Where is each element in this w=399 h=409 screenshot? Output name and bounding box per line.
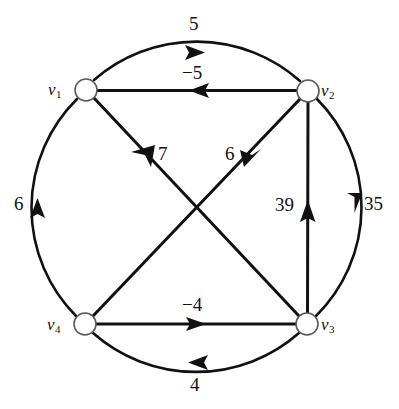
arrowhead-bottom-arc: [188, 355, 208, 370]
node-v4[interactable]: [74, 313, 96, 335]
node-label-v1: v1: [48, 81, 61, 98]
node-label-v4-sub: 4: [55, 323, 61, 335]
node-label-v3-text: v: [321, 315, 329, 334]
node-v1[interactable]: [75, 79, 97, 101]
arrowhead-top-arc: [185, 45, 205, 60]
node-label-v3: v3: [321, 316, 334, 333]
node-label-v2: v2: [321, 82, 334, 99]
node-label-v1-text: v: [48, 80, 56, 99]
edge-weight-left-arc: 6: [14, 194, 24, 213]
graph-figure: v1 v2 v3 v4 5 −5 6 35 39 7 6 −4 4: [0, 0, 399, 409]
node-label-v2-sub: 2: [329, 89, 335, 101]
edge-weight-diag-6: 6: [225, 144, 235, 163]
arrowhead-right-arc: [347, 193, 362, 213]
edge-weight-top-arc: 5: [189, 14, 199, 33]
edge-weight-bottom-chord: −4: [182, 295, 202, 314]
edge-weight-top-chord: −5: [182, 63, 202, 82]
node-label-v4: v4: [47, 316, 60, 333]
edge-weight-bottom-arc: 4: [190, 375, 200, 394]
node-v2[interactable]: [297, 80, 319, 102]
node-label-v2-text: v: [321, 81, 329, 100]
edge-weight-right-arc: 35: [364, 194, 383, 213]
node-label-v1-sub: 1: [56, 88, 62, 100]
node-label-v4-text: v: [47, 315, 55, 334]
edge-weight-vertical-chord: 39: [275, 195, 294, 214]
node-v3[interactable]: [296, 313, 318, 335]
edge-arc-v3-v4: [93, 333, 299, 372]
edge-weight-diag-7: 7: [158, 144, 168, 163]
node-label-v3-sub: 3: [329, 323, 335, 335]
